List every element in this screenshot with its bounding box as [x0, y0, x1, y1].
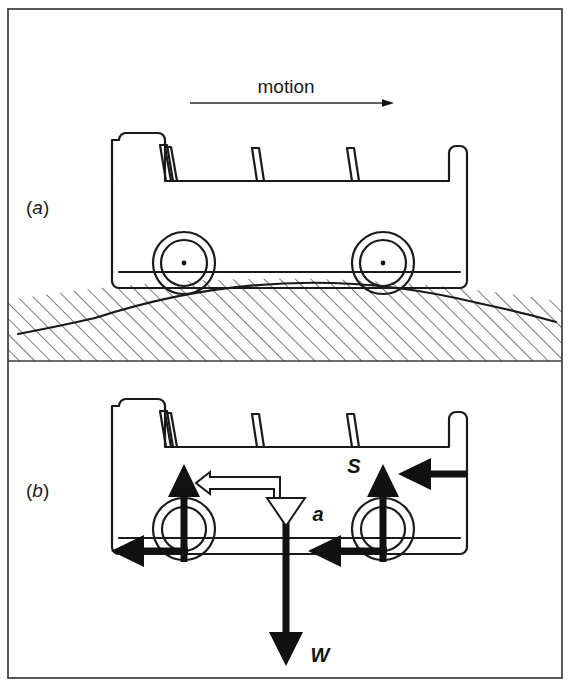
- force-label-S: S: [347, 455, 361, 477]
- panel-label-b-letter: b: [32, 480, 43, 501]
- force-label-a: a: [312, 503, 323, 525]
- motion-arrow-icon: [190, 99, 394, 107]
- force-label-W: W: [311, 644, 332, 666]
- motion-label: motion: [257, 76, 314, 97]
- bus-a: [112, 133, 467, 294]
- seat-backs-a: [160, 145, 359, 181]
- acceleration-arrow-head: [267, 498, 305, 526]
- force-arrow-friction-front: [111, 535, 188, 567]
- panel-label-a-letter: a: [32, 197, 43, 218]
- panel-label-a: (a): [26, 197, 49, 218]
- acceleration-arrow: a: [196, 472, 324, 526]
- panel-a: motion: [8, 76, 562, 370]
- force-arrow-applied-rear: [398, 458, 467, 490]
- seat-backs-b: [160, 411, 359, 447]
- acceleration-elbow-branch: [196, 472, 286, 498]
- figure-canvas: motion: [0, 0, 573, 694]
- motion-annotation: motion: [190, 76, 394, 107]
- wheel-hub-dot: [381, 261, 386, 266]
- wheel-hub-dot: [182, 261, 187, 266]
- figure-root: motion: [0, 0, 573, 694]
- ground-surface: [8, 250, 562, 370]
- force-arrow-weight: W: [269, 508, 332, 666]
- panel-b: S W: [26, 399, 467, 666]
- panel-label-b: (b): [26, 480, 49, 501]
- force-arrow-friction-rear: [308, 535, 387, 567]
